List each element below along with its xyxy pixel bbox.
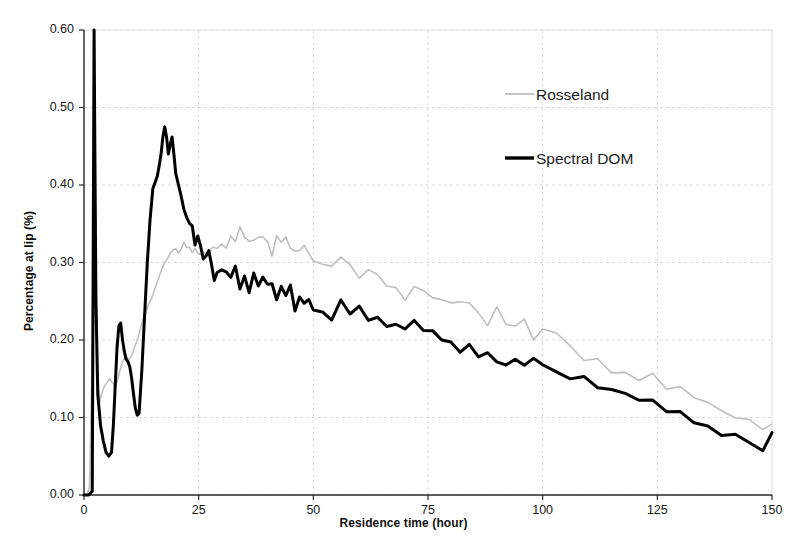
- x-tick-label: 125: [634, 503, 680, 517]
- legend-label-rosseland: Rosseland: [536, 86, 609, 104]
- chart-container: 0.000.100.200.300.400.500.60 02550751001…: [0, 0, 807, 560]
- legend-line-swatches: [505, 94, 534, 158]
- legend-label-spectral-dom: Spectral DOM: [536, 150, 633, 168]
- grid-lines: [84, 30, 772, 495]
- y-tick-label: 0.10: [28, 410, 74, 424]
- line-chart-plot: [0, 0, 807, 560]
- x-tick-label: 75: [405, 503, 451, 517]
- x-tick-label: 100: [520, 503, 566, 517]
- y-tick-label: 0.00: [28, 487, 74, 501]
- x-tick-label: 150: [749, 503, 795, 517]
- y-axis-title-wrapper: Percentage at lip (%): [19, 161, 37, 381]
- y-axis-title: Percentage at lip (%): [22, 211, 36, 331]
- x-axis-title: Residence time (hour): [0, 516, 807, 530]
- y-tick-label: 0.60: [28, 22, 74, 36]
- plot-frame: [79, 30, 772, 500]
- y-tick-label: 0.50: [28, 100, 74, 114]
- x-tick-label: 0: [61, 503, 107, 517]
- x-tick-label: 25: [176, 503, 222, 517]
- x-tick-label: 50: [290, 503, 336, 517]
